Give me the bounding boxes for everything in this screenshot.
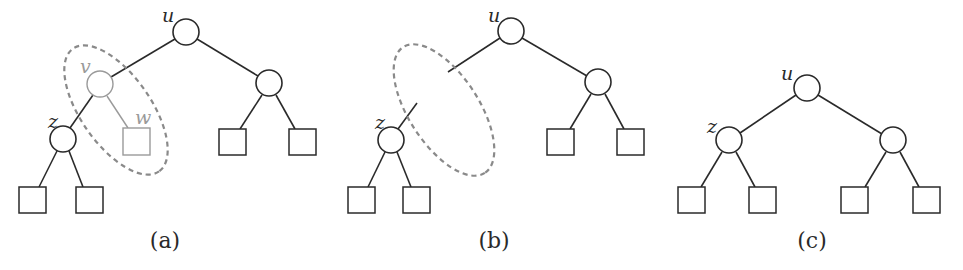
edge-right-leaf2 <box>605 94 624 129</box>
edge-u-right <box>197 39 258 76</box>
leaf <box>749 187 776 213</box>
panel-c: u z (c) <box>678 62 940 253</box>
edge-z-leaf2 <box>397 152 411 187</box>
edge-z-leaf2 <box>736 152 755 187</box>
label-z: z <box>47 110 59 132</box>
panel-a: u v w z (a) <box>19 4 316 253</box>
node-u <box>794 75 820 101</box>
edge-z-leaf2 <box>69 151 83 187</box>
node-z <box>716 127 742 153</box>
label-z: z <box>374 111 386 133</box>
edge-u-right <box>522 38 587 76</box>
edge-v-z <box>70 95 93 128</box>
edge-u-z <box>740 95 796 133</box>
leaf <box>913 187 940 213</box>
leaf <box>19 187 46 213</box>
node-v <box>87 71 113 97</box>
node-right <box>880 127 906 153</box>
label-v: v <box>80 55 91 77</box>
leaf <box>348 187 375 213</box>
edge-u-right <box>818 95 882 134</box>
edge-z-leaf1 <box>701 152 722 187</box>
edge-u-v <box>111 39 175 77</box>
leaf-w <box>123 128 150 155</box>
edge-v-w <box>107 96 128 128</box>
label-u: u <box>488 4 500 26</box>
label-w: w <box>135 106 151 128</box>
leaf <box>547 129 574 155</box>
leaf <box>617 129 644 155</box>
leaf <box>76 187 103 213</box>
edge-u-stub <box>448 38 500 72</box>
node-right <box>585 69 611 95</box>
edge-z-leaf1 <box>368 152 385 187</box>
tree-restructure-figure: u v w z (a) u z (b) <box>0 0 963 270</box>
leaf <box>219 129 246 155</box>
label-u: u <box>162 4 174 26</box>
label-z: z <box>706 115 718 137</box>
edge-right-leaf2 <box>900 152 919 187</box>
edge-right-leaf1 <box>240 95 262 129</box>
node-u <box>498 18 524 44</box>
leaf <box>403 187 430 213</box>
node-u <box>173 19 199 45</box>
caption-a: (a) <box>150 228 180 253</box>
label-u: u <box>781 62 793 84</box>
edge-right-leaf2 <box>276 95 295 129</box>
caption-c: (c) <box>797 228 827 253</box>
caption-b: (b) <box>478 228 509 253</box>
panel-b: u z (b) <box>348 4 644 253</box>
edge-right-leaf1 <box>865 152 886 187</box>
leaf <box>841 187 868 213</box>
edge-z-leaf1 <box>39 151 57 187</box>
edge-right-leaf1 <box>570 94 591 129</box>
leaf <box>289 129 316 155</box>
removed-region-ellipse <box>374 28 514 192</box>
edge-z-stub <box>398 103 417 129</box>
node-right <box>256 70 282 96</box>
leaf <box>678 187 705 213</box>
